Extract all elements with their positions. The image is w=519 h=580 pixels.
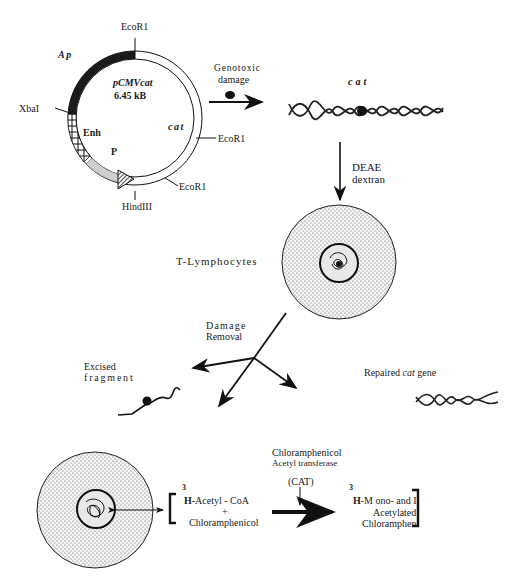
- ecor1-right-label: EcoR1: [218, 133, 245, 144]
- diagram-canvas: [0, 0, 519, 580]
- plasmid-name: pCMVcat: [113, 77, 152, 88]
- damage-dot-icon: [225, 91, 235, 99]
- damage-removal-label-2: Removal: [206, 331, 242, 342]
- hindiii-label: HindIII: [122, 201, 152, 212]
- t-lymphocytes-label: T-Lymphocytes: [176, 256, 258, 267]
- ecor1-bottom-label: EcoR1: [179, 181, 206, 192]
- xbai-label: XbaI: [19, 103, 39, 114]
- product-line-3: Chlorampheni: [362, 518, 419, 530]
- ecor1-top-label: EcoR1: [121, 21, 148, 32]
- substrate-line-1: H-Acetyl - CoA: [184, 495, 249, 507]
- product-line-1: H-M ono- and I: [353, 495, 417, 507]
- enzyme-label-1: Chloramphenicol: [272, 447, 341, 458]
- damaged-cat-dna: [289, 101, 443, 119]
- substrate-bracket: [170, 494, 176, 523]
- enzyme-abbr: (CAT): [288, 476, 314, 487]
- damaged-cat-label: cat: [348, 76, 369, 87]
- deae-label-1: DEAE: [352, 162, 381, 173]
- genotoxic-label-1: Genotoxic: [214, 63, 261, 74]
- product-superscript: 3: [349, 482, 353, 494]
- promoter-label: P: [111, 146, 117, 157]
- enh-segment: [68, 114, 90, 162]
- repaired-cat-dna: [416, 392, 498, 405]
- plasmid-size: 6.45 kB: [114, 90, 146, 101]
- deae-label-2: dextran: [352, 174, 385, 185]
- cat-segment-label: cat: [168, 121, 185, 132]
- cat-start-arrow: [118, 170, 134, 189]
- ap-label: Ap: [58, 49, 73, 60]
- excised-fragment: [118, 388, 180, 415]
- t-lymphocyte-cell: [282, 205, 396, 319]
- plasmid-map: [55, 38, 216, 200]
- enzyme-label-2: Acetyl transferase: [272, 458, 337, 469]
- promoter-segment: [86, 158, 122, 183]
- substrate-line-2: Chloramphenicol: [189, 517, 258, 529]
- excised-label-1: Excised: [84, 361, 116, 372]
- genotoxic-label-2: damage: [218, 74, 249, 85]
- repaired-label: Repaired cat gene: [364, 367, 436, 378]
- damage-removal-label-1: Damage: [206, 320, 247, 331]
- t-lymphocyte-cell-assay: [37, 452, 163, 568]
- substrate-superscript: 3: [182, 482, 186, 494]
- enh-label: Enh: [83, 127, 101, 138]
- excised-label-2: fragment: [84, 372, 135, 383]
